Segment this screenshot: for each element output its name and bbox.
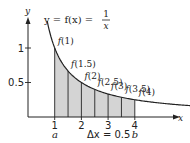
interval-b-label: b (132, 129, 138, 140)
dx-label: Δx = 0.5 (87, 129, 130, 140)
trapezoid-rule-chart: 12340.51 f(1)f(1.5)f(2)f(2.5)f(3)f(3.5)f… (0, 0, 190, 143)
trapezoid-1 (55, 48, 68, 117)
y-axis-label: y (24, 6, 31, 16)
point-label: f(4) (138, 87, 155, 97)
trapezoid-6 (121, 97, 134, 117)
y-axis-arrow-icon (26, 17, 31, 24)
interval-a-label: a (52, 129, 58, 140)
chart-title: y = f(x) = 1 x (43, 9, 110, 31)
x-axis-label: x (178, 113, 183, 123)
title-lhs: y = f(x) = (43, 14, 93, 25)
point-label: f(1) (57, 36, 74, 46)
y-tick-label: 1 (18, 43, 24, 54)
title-denominator: x (103, 21, 108, 31)
title-numerator: 1 (103, 9, 109, 19)
y-tick-label: 0.5 (8, 77, 24, 88)
point-label: f(1.5) (70, 59, 96, 69)
x-tick-label: 2 (78, 120, 84, 131)
trapezoid-3 (81, 83, 94, 118)
